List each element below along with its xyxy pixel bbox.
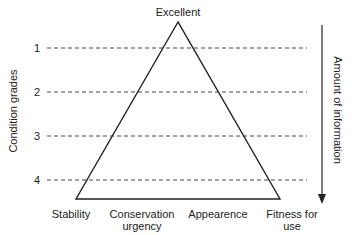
grade-lines bbox=[47, 48, 307, 180]
grade-label-1: 1 bbox=[34, 42, 40, 54]
base-label-fitness-line2: use bbox=[256, 220, 328, 232]
condition-triangle bbox=[76, 22, 280, 199]
base-label-conservation-line2: urgency bbox=[104, 220, 180, 232]
grade-label-3: 3 bbox=[34, 130, 40, 142]
base-label-fitness-line1: Fitness for bbox=[256, 208, 328, 220]
right-axis-label: Amount of information bbox=[332, 50, 344, 170]
base-label-fitness-for-use: Fitness for use bbox=[256, 208, 328, 232]
base-label-appearence: Appearence bbox=[180, 208, 256, 220]
base-label-conservation-line1: Conservation bbox=[104, 208, 180, 220]
base-label-conservation-urgency: Conservation urgency bbox=[104, 208, 180, 232]
grade-label-2: 2 bbox=[34, 86, 40, 98]
diagram-canvas bbox=[0, 0, 352, 235]
left-axis-label: Condition grades bbox=[7, 61, 19, 161]
grade-label-4: 4 bbox=[34, 174, 40, 186]
base-label-stability: Stability bbox=[46, 208, 96, 220]
information-arrow bbox=[318, 25, 326, 204]
base-label-stability-line1: Stability bbox=[46, 208, 96, 220]
base-label-appearence-line1: Appearence bbox=[180, 208, 256, 220]
apex-label: Excellent bbox=[148, 6, 208, 18]
